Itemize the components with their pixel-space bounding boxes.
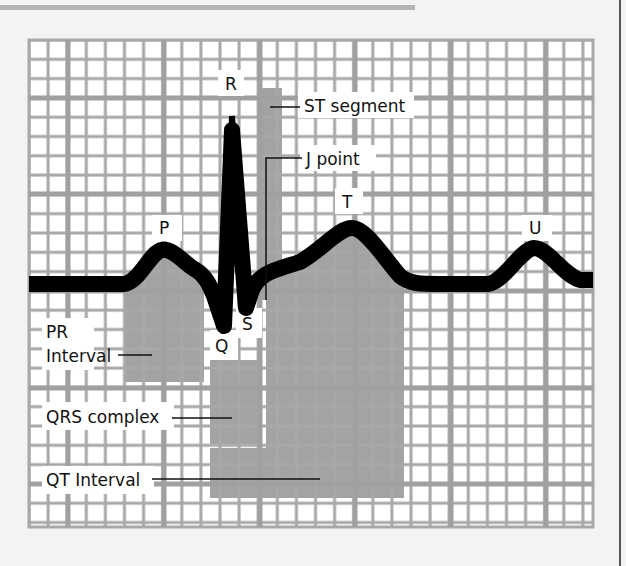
label-t: T bbox=[341, 192, 353, 212]
label-r: R bbox=[225, 74, 237, 94]
label-s: S bbox=[242, 314, 253, 334]
ecg-diagram: R ST segment J point T P U Q S PR Interv… bbox=[0, 0, 626, 566]
label-j-point: J point bbox=[305, 149, 360, 169]
label-p: P bbox=[159, 218, 169, 238]
label-qrs-complex: QRS complex bbox=[46, 407, 159, 427]
label-st-segment: ST segment bbox=[304, 96, 405, 116]
label-u: U bbox=[529, 218, 541, 238]
label-q: Q bbox=[215, 336, 228, 356]
label-pr-interval-2: Interval bbox=[46, 346, 111, 366]
label-qt-interval: QT Interval bbox=[46, 470, 140, 490]
label-pr-interval-1: PR bbox=[46, 322, 68, 342]
